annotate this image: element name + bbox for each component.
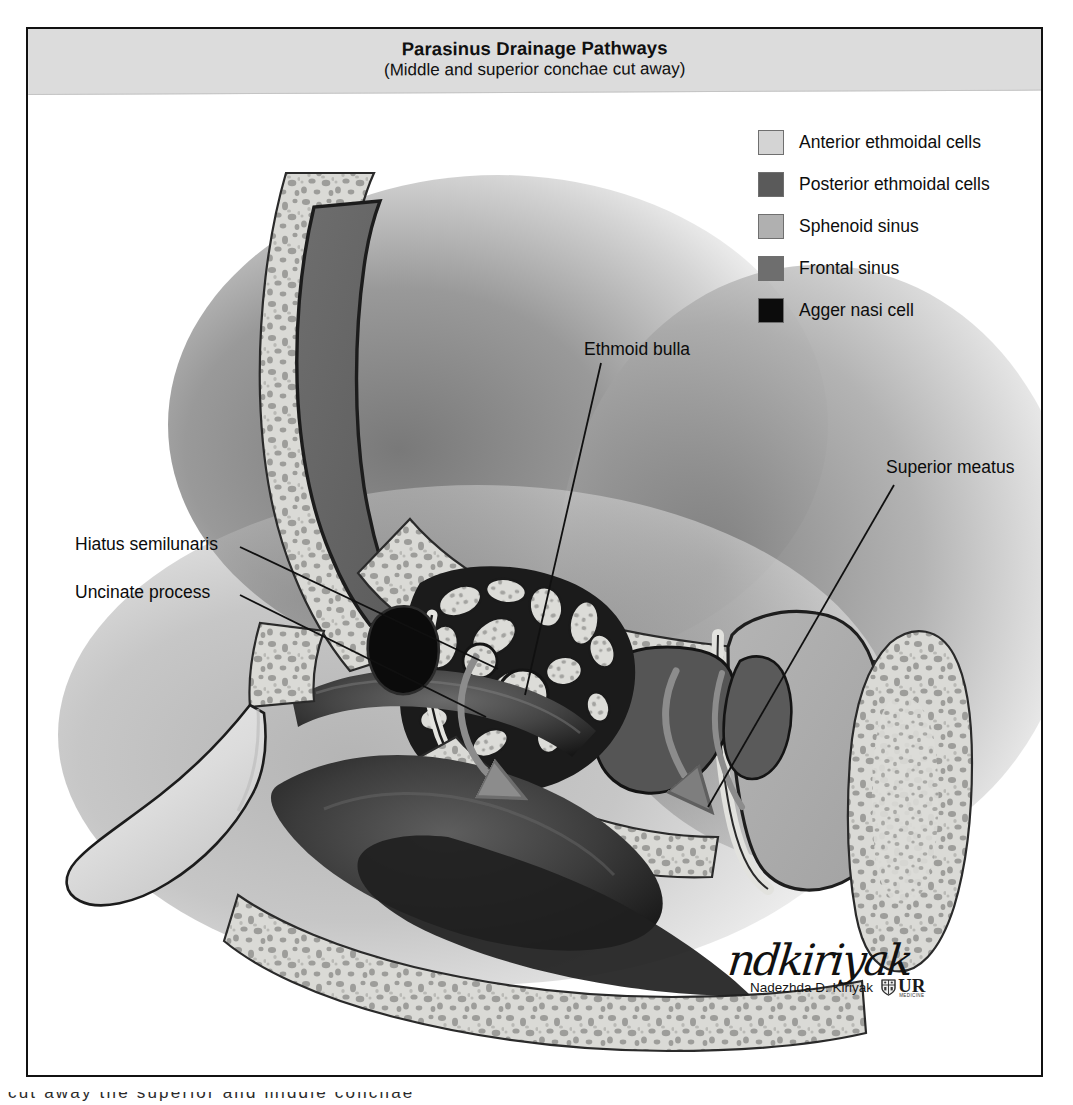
figure-frame: Parasinus Drainage Pathways (Middle and … (26, 27, 1043, 1077)
legend: Anterior ethmoidal cells Posterior ethmo… (758, 121, 1043, 331)
signature-script: ndkiriyak (726, 941, 913, 980)
legend-swatch-anterior-ethmoidal-cells (758, 130, 784, 155)
page-bleed-text: cut away the superior and middle conchae (8, 1092, 1058, 1105)
annotation-label-uncinate-process: Uncinate process (75, 582, 210, 603)
legend-item-frontal-sinus: Frontal sinus (758, 247, 1043, 289)
legend-swatch-agger-nasi-cell (758, 298, 784, 323)
nasal-bone (249, 623, 324, 707)
agger-nasi-cell-structure (368, 606, 439, 694)
legend-item-anterior-ethmoidal-cells: Anterior ethmoidal cells (758, 121, 1043, 163)
legend-label-anterior-ethmoidal-cells: Anterior ethmoidal cells (799, 132, 981, 153)
page-bleed-line: cut away the superior and middle conchae (8, 1092, 1058, 1103)
annotation-label-hiatus-semilunaris: Hiatus semilunaris (75, 534, 218, 555)
annotation-label-ethmoid-bulla: Ethmoid bulla (584, 339, 690, 360)
title-banner: Parasinus Drainage Pathways (Middle and … (28, 27, 1041, 95)
legend-item-posterior-ethmoidal-cells: Posterior ethmoidal cells (758, 163, 1043, 205)
legend-label-agger-nasi-cell: Agger nasi cell (799, 300, 914, 321)
ur-logo-subtext: MEDICINE (899, 994, 924, 998)
legend-swatch-posterior-ethmoidal-cells (758, 172, 784, 197)
legend-item-agger-nasi-cell: Agger nasi cell (758, 289, 1043, 331)
annotation-label-superior-meatus: Superior meatus (886, 457, 1014, 478)
artist-signature: ndkiriyak Nadezhda D. Kiriyak UR MEDICIN… (728, 941, 988, 998)
legend-swatch-sphenoid-sinus (758, 214, 784, 239)
legend-item-sphenoid-sinus: Sphenoid sinus (758, 205, 1043, 247)
legend-label-frontal-sinus: Frontal sinus (799, 258, 899, 279)
page-subtitle: (Middle and superior conchae cut away) (384, 60, 686, 82)
legend-label-posterior-ethmoidal-cells: Posterior ethmoidal cells (799, 174, 990, 195)
legend-swatch-frontal-sinus (758, 256, 784, 281)
legend-label-sphenoid-sinus: Sphenoid sinus (799, 216, 919, 237)
posterior-skull-bone (848, 631, 972, 971)
page-title: Parasinus Drainage Pathways (402, 37, 668, 59)
